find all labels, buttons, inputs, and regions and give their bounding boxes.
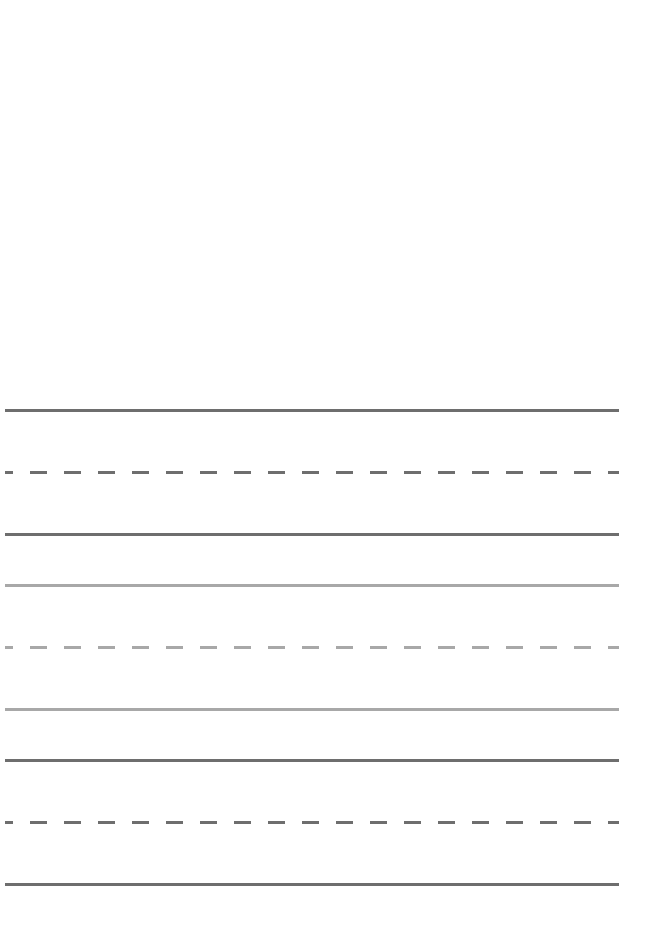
- bottom-solid-line: [5, 533, 619, 536]
- top-solid-line: [5, 409, 619, 412]
- mid-dashed-line: [5, 471, 619, 474]
- mid-dashed-line: [5, 646, 619, 649]
- top-solid-line: [5, 584, 619, 587]
- mid-dashed-line: [5, 821, 619, 824]
- bottom-solid-line: [5, 708, 619, 711]
- top-solid-line: [5, 759, 619, 762]
- bottom-solid-line: [5, 883, 619, 886]
